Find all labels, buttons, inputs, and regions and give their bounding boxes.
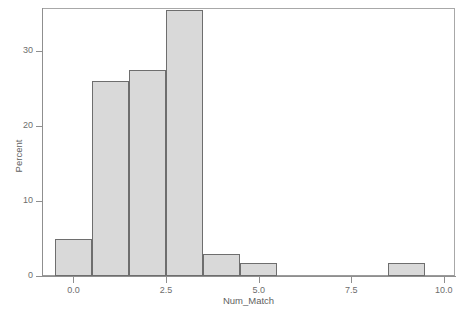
histogram-bar (92, 81, 129, 276)
chart-title (0, 0, 463, 1)
x-axis-label: Num_Match (42, 295, 455, 306)
histogram-bar (55, 239, 92, 276)
histogram-bar (240, 263, 277, 276)
y-axis-tick (36, 201, 42, 202)
bars-container (42, 8, 455, 276)
histogram-bar (203, 254, 240, 276)
y-axis-tick (36, 51, 42, 52)
histogram-bar (166, 10, 203, 276)
y-axis-tick (36, 126, 42, 127)
histogram-bar (129, 70, 166, 276)
x-axis-line (42, 276, 456, 277)
y-axis-label: Percent (13, 140, 24, 173)
histogram-chart: 0102030 0.02.55.07.510.0 Percent Num_Mat… (0, 0, 463, 312)
y-axis-tick (36, 276, 42, 277)
histogram-bar (388, 263, 425, 276)
